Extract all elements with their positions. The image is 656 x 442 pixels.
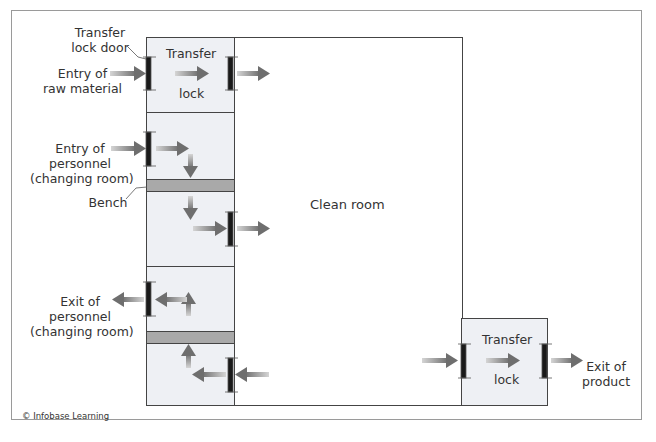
arrow-icon <box>110 66 583 382</box>
leader-line-bench <box>126 187 147 199</box>
door-icon <box>143 57 552 392</box>
flow-overlay <box>0 0 656 442</box>
